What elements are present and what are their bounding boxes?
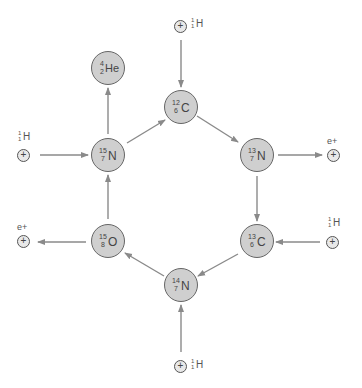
plus-icon: +	[178, 360, 184, 371]
positron-left: +	[17, 235, 30, 248]
mass-number: 13	[248, 233, 256, 240]
nucleus-carbon-13: 13 6 C	[240, 224, 274, 258]
element-symbol: N	[257, 149, 266, 163]
nucleus-nitrogen-13: 13 7 N	[240, 138, 274, 172]
plus-icon: +	[21, 149, 27, 160]
plus-icon: +	[331, 149, 337, 160]
positron-right: +	[327, 149, 340, 162]
plus-icon: +	[330, 236, 336, 247]
atomic-number: 7	[101, 155, 105, 162]
atomic-number: 7	[174, 285, 178, 292]
nucleus-oxygen-15: 15 8 O	[91, 224, 125, 258]
nucleus-helium-4: 4 2 He	[91, 51, 125, 85]
arrow-c12-to-n13	[197, 116, 238, 142]
mass-number: 12	[172, 99, 180, 106]
atomic-number: 8	[101, 241, 105, 248]
element-symbol: N	[181, 279, 190, 293]
proton-bottom: +	[174, 360, 187, 373]
proton-right: +	[326, 236, 339, 249]
positron-left-label: e+	[17, 222, 27, 232]
mass-number: 15	[99, 233, 107, 240]
mass-number: 4	[100, 60, 104, 67]
atomic-number: 2	[100, 68, 104, 75]
nucleus-nitrogen-14: 14 7 N	[164, 268, 198, 302]
plus-icon: +	[21, 235, 27, 246]
proton-top: +	[174, 20, 187, 33]
element-symbol: C	[257, 235, 266, 249]
element-symbol: N	[108, 149, 117, 163]
mass-number: 13	[248, 147, 256, 154]
element-symbol: He	[105, 62, 119, 74]
element-symbol: C	[181, 101, 190, 115]
plus-icon: +	[178, 20, 184, 31]
arrow-n15-to-c12	[127, 120, 165, 143]
element-symbol: O	[108, 235, 117, 249]
proton-left: +	[17, 149, 30, 162]
mass-number: 14	[172, 277, 180, 284]
atomic-number: 7	[250, 155, 254, 162]
arrow-n14-to-o15	[125, 253, 164, 276]
atomic-number: 6	[250, 241, 254, 248]
atomic-number: 6	[174, 107, 178, 114]
positron-right-label: e+	[327, 136, 337, 146]
nucleus-carbon-12: 12 6 C	[164, 90, 198, 124]
arrows-layer	[0, 0, 362, 388]
mass-number: 15	[99, 147, 107, 154]
arrow-c13-to-n14	[198, 254, 238, 276]
nucleus-nitrogen-15: 15 7 N	[91, 138, 125, 172]
